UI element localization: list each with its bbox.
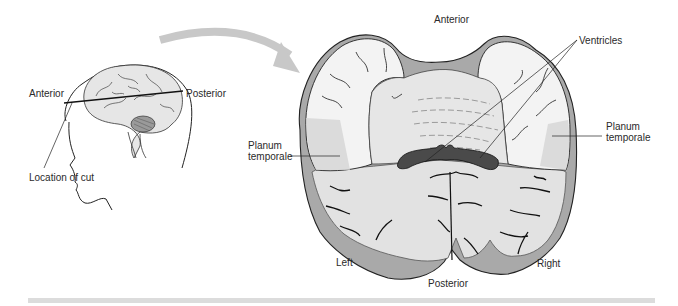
transition-arrow — [160, 32, 290, 55]
planum-right-line2: temporale — [606, 132, 650, 143]
section-posterior-label: Posterior — [428, 278, 468, 289]
location-of-cut-label: Location of cut — [29, 172, 94, 183]
head-posterior-label: Posterior — [186, 88, 226, 99]
planum-left-line2: temporale — [248, 151, 292, 162]
face-profile — [69, 122, 112, 210]
left-label: Left — [336, 257, 353, 268]
brain-section — [290, 35, 602, 279]
planum-temporale-left-label: Planum temporale — [248, 140, 292, 162]
head-diagram — [44, 65, 192, 210]
bottom-divider-bar — [28, 298, 655, 303]
ventricles-label: Ventricles — [579, 35, 622, 46]
planum-temporale-right-label: Planum temporale — [606, 121, 650, 143]
right-label: Right — [537, 258, 560, 269]
brain-side-view — [84, 65, 183, 158]
planum-right-line1: Planum — [606, 121, 650, 132]
head-anterior-label: Anterior — [29, 88, 64, 99]
section-anterior-label: Anterior — [434, 14, 469, 25]
planum-left-line1: Planum — [248, 140, 292, 151]
